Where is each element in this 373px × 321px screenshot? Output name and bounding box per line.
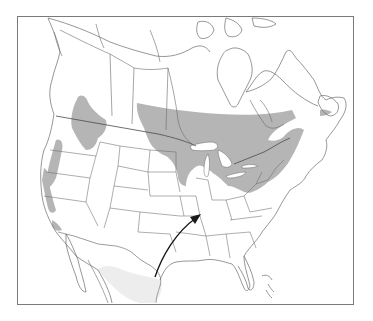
western-range-bc xyxy=(71,96,106,150)
arctic-coast xyxy=(48,18,210,57)
baja-california xyxy=(66,234,86,292)
boreal-range-shading xyxy=(137,103,304,193)
arctic-island-2 xyxy=(225,18,242,37)
newfoundland-range-shading xyxy=(320,110,332,116)
range-map xyxy=(0,0,373,321)
arctic-island-3 xyxy=(252,18,276,27)
bahamas xyxy=(262,275,274,298)
mexico-faint-shading xyxy=(98,266,162,303)
hudson-bay xyxy=(217,48,252,107)
florida xyxy=(238,256,254,290)
western-range-so-cal xyxy=(52,220,62,231)
migration-arrow-head-icon xyxy=(190,214,201,224)
arctic-island-1 xyxy=(197,21,214,38)
migration-arrow-line xyxy=(155,218,196,277)
map-svg xyxy=(0,0,373,321)
